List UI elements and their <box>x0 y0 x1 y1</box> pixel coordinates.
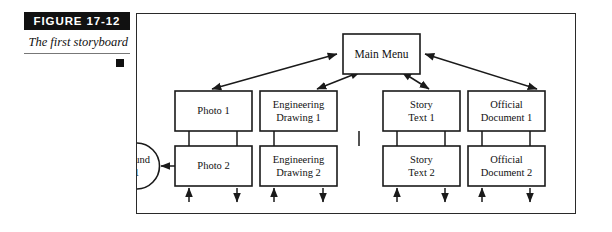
figure-number-label: FIGURE 17-12 <box>24 12 130 30</box>
node-story-text-2-label-line2: Text 2 <box>408 167 434 178</box>
edge-main-menu-photo-1 <box>212 54 337 89</box>
node-story-text-1[interactable] <box>383 91 460 131</box>
node-official-document-1[interactable] <box>468 91 545 131</box>
node-official-document-2-label-line1: Official <box>490 154 523 165</box>
node-engineering-drawing-2[interactable] <box>260 146 337 186</box>
figure-caption-block: FIGURE 17-12 The first storyboard <box>24 12 130 54</box>
caption-divider-rule <box>24 53 130 54</box>
edge-main-menu-official-document-1 <box>425 54 537 89</box>
node-sound-1-label-line1: Sound <box>137 154 151 165</box>
node-engineering-drawing-1-label-line1: Engineering <box>273 99 325 110</box>
node-engineering-drawing-1-label-line2: Drawing 1 <box>276 112 321 123</box>
figure-caption-text: The first storyboard <box>24 30 130 53</box>
figure-page: FIGURE 17-12 The first storyboard Main M… <box>0 0 612 232</box>
node-official-document-2-label-line2: Document 2 <box>481 167 533 178</box>
node-story-text-2[interactable] <box>383 146 460 186</box>
node-official-document-2[interactable] <box>468 146 545 186</box>
node-story-text-1-label-line1: Story <box>410 99 434 110</box>
node-photo-1-label: Photo 1 <box>197 105 229 116</box>
node-engineering-drawing-2-label-line2: Drawing 2 <box>276 167 321 178</box>
node-sound-1[interactable] <box>137 143 160 189</box>
node-official-document-1-label-line2: Document 1 <box>481 112 533 123</box>
storyboard-diagram: Main Menu Photo 1 Engineering Drawing 1 … <box>137 14 575 213</box>
node-story-text-2-label-line1: Story <box>410 154 434 165</box>
node-main-menu-label: Main Menu <box>355 48 409 60</box>
black-square-bullet-icon <box>116 59 124 67</box>
diagram-panel: Main Menu Photo 1 Engineering Drawing 1 … <box>136 13 576 214</box>
node-engineering-drawing-2-label-line1: Engineering <box>273 154 325 165</box>
node-official-document-1-label-line1: Official <box>490 99 523 110</box>
node-photo-2-label: Photo 2 <box>197 160 229 171</box>
node-engineering-drawing-1[interactable] <box>260 91 337 131</box>
node-sound-1-label-line2: 1 <box>137 167 139 178</box>
node-story-text-1-label-line2: Text 1 <box>408 112 434 123</box>
